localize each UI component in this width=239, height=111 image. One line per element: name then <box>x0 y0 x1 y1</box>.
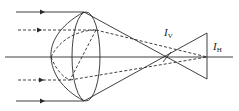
lens-rim-dashed-lower <box>51 57 70 80</box>
refracted-rays <box>70 12 207 101</box>
arrow-icon <box>39 78 44 83</box>
lens <box>51 12 100 101</box>
lens-rim-solid <box>72 12 100 101</box>
lens-outer-left <box>51 12 84 101</box>
label-iv: IV <box>163 26 173 40</box>
arrow-icon <box>37 28 42 33</box>
ray-upper-dashed-refracted <box>96 30 207 57</box>
label-ih: IH <box>212 40 222 54</box>
arrow-icon <box>40 10 45 15</box>
lens-diag-dashed <box>70 30 96 80</box>
ray-lower-dashed-refracted <box>70 57 207 80</box>
incoming-rays <box>16 10 96 104</box>
astigmatism-diagram: IV IH <box>0 0 239 111</box>
ray-top-refracted <box>84 12 207 79</box>
arrow-icon <box>40 99 45 104</box>
